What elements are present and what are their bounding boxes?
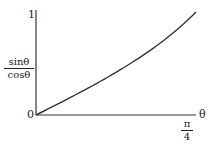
x-tick-numerator: π <box>181 119 193 131</box>
tan-curve <box>36 12 196 115</box>
x-tick-pi-over-4: π 4 <box>181 119 193 142</box>
x-axis-label: θ <box>199 109 206 120</box>
origin-label: 0 <box>27 109 34 120</box>
y-tick-1: 1 <box>28 9 35 20</box>
x-tick-denominator: 4 <box>181 131 193 142</box>
y-axis-label-numerator: sinθ <box>4 57 34 69</box>
y-axis-label-denominator: cosθ <box>4 69 34 80</box>
y-axis-label: sinθ cosθ <box>4 57 34 80</box>
